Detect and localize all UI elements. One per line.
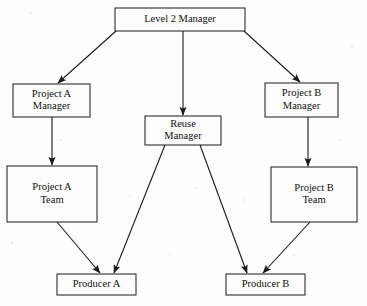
node-project-b-team: Project BTeam xyxy=(271,167,357,222)
node-project-a-manager: Project AManager xyxy=(13,84,90,117)
node-label-project-b-manager: Manager xyxy=(283,100,321,111)
node-label-reuse-manager: Manager xyxy=(164,130,202,141)
node-label-reuse-manager: Reuse xyxy=(170,118,196,129)
node-producer-b: Producer B xyxy=(226,274,305,295)
node-producer-a: Producer A xyxy=(57,274,136,295)
node-level2-manager: Level 2 Manager xyxy=(115,8,245,31)
node-project-b-manager: Project BManager xyxy=(265,83,338,117)
org-chart-canvas: Level 2 ManagerProject AManagerReuseMana… xyxy=(0,0,367,306)
node-project-a-team: Project ATeam xyxy=(7,166,97,222)
org-chart-diagram: Level 2 ManagerProject AManagerReuseMana… xyxy=(0,0,367,306)
node-reuse-manager: ReuseManager xyxy=(145,116,221,145)
edge-l2m-to-pbm xyxy=(244,31,300,82)
node-label-project-a-team: Team xyxy=(40,194,63,205)
node-label-level2-manager: Level 2 Manager xyxy=(144,13,216,24)
node-label-project-b-team: Project B xyxy=(294,182,333,193)
edge-reuse-to-proda xyxy=(114,145,165,273)
node-label-producer-a: Producer A xyxy=(73,278,121,289)
edge-pat-to-proda xyxy=(57,222,100,273)
node-label-project-b-manager: Project B xyxy=(282,87,321,98)
node-label-producer-b: Producer B xyxy=(242,278,290,289)
edge-l2m-to-pam xyxy=(58,31,116,83)
node-label-project-a-manager: Manager xyxy=(33,100,71,111)
nodes-group: Level 2 ManagerProject AManagerReuseMana… xyxy=(7,8,357,295)
edges-group xyxy=(52,31,310,273)
edge-pbt-to-prodb xyxy=(263,222,310,273)
edge-reuse-to-prodb xyxy=(200,145,247,273)
node-label-project-a-team: Project A xyxy=(32,181,72,192)
node-label-project-b-team: Team xyxy=(302,194,325,205)
node-label-project-a-manager: Project A xyxy=(32,88,72,99)
